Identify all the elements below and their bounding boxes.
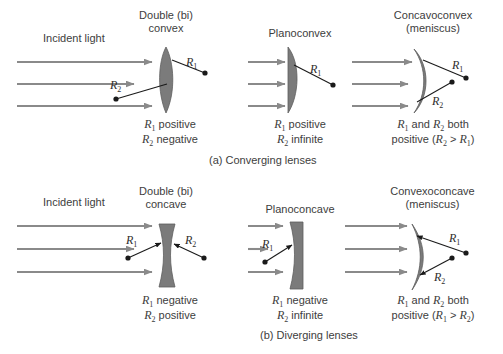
center-dot-r2-convexoconcave [449,255,454,260]
lens-note-biconcave-line2: R2 positive [118,308,222,324]
lens-biconvex [160,47,173,113]
lens-title-biconcave: Double (bi) concave [116,185,216,211]
lens-note-planoconvex-line2: R2 infinite [248,132,352,148]
lens-title-biconvex: Double (bi) convex [116,9,216,35]
lens-note-concavoconvex-line1: R1 and R2 both [368,117,498,133]
lens-title-concavoconvex: Concavoconvex (meniscus) [378,9,488,35]
rays-convexoconcave [345,226,407,272]
rays-planoconvex [248,62,285,106]
rays-biconvex [17,62,152,106]
radius-label-r1-concavoconvex: R1 [452,58,463,74]
radius-label-r1-convexoconcave: R1 [449,231,460,247]
lens-title-planoconcave: Planoconcave [250,203,350,216]
lens-title-concavoconvex-line2: (meniscus) [378,22,488,35]
center-dot-r2-biconcave [201,255,206,260]
radius-label-r2-concavoconvex: R2 [432,94,443,110]
lens-concavoconvex [414,49,426,113]
lens-note-planoconcave-line1: R1 negative [248,293,352,309]
incident-light-label-a: Incident light [43,32,105,44]
panel-b-caption: (b) Diverging lenses [260,329,358,341]
lens-note-biconcave-line1: R1 negative [118,293,222,309]
lens-title-planoconcave-line1: Planoconcave [250,203,350,216]
lens-note-biconvex-line2: R2 negative [118,132,222,148]
lens-note-biconvex-line1: R1 positive [118,117,222,133]
lens-title-planoconvex-line1: Planoconvex [250,27,350,40]
radius-label-r2-biconcave: R2 [185,233,196,249]
radius-label-r1-biconcave: R1 [126,233,137,249]
lens-title-convexoconcave-line2: (meniscus) [375,198,490,211]
rays-concavoconvex [352,62,412,106]
center-dot-r1-biconcave [125,255,130,260]
center-dot-r1-concavoconvex [463,75,468,80]
lens-planoconcave [290,222,303,289]
center-dot-r2-concavoconvex [449,79,454,84]
lens-note-planoconvex-line1: R1 positive [248,117,352,133]
lens-title-biconcave-line2: concave [116,198,216,211]
radius-label-r2-convexoconcave: R2 [434,270,445,286]
lens-title-biconvex-line1: Double (bi) [116,9,216,22]
center-dot-r2-biconvex [113,96,118,101]
lens-types-figure: Incident light Double (bi) convex Planoc… [0,0,503,354]
center-dot-r1-planoconvex [330,82,335,87]
lens-title-convexoconcave: Convexoconcave (meniscus) [375,185,490,211]
center-dot-r1-biconvex [202,70,207,75]
center-dot-r1-convexoconcave [463,250,468,255]
lens-note-convexoconcave-line2: positive (R1 > R2) [368,308,498,324]
radius-label-r1-planoconvex: R1 [310,62,321,78]
lens-title-biconcave-line1: Double (bi) [116,185,216,198]
lens-title-convexoconcave-line1: Convexoconcave [375,185,490,198]
lens-convexoconcave [412,224,423,290]
lens-title-planoconvex: Planoconvex [250,27,350,40]
radius-label-r1-planoconcave: R1 [262,237,273,253]
lens-planoconvex [288,47,297,113]
radius-label-r1-biconvex: R1 [186,55,197,71]
center-dot-r1-planoconcave [262,259,267,264]
lens-title-biconvex-line2: convex [116,22,216,35]
lens-title-concavoconvex-line1: Concavoconvex [378,9,488,22]
lens-note-convexoconcave-line1: R1 and R2 both [368,293,498,309]
incident-light-label-b: Incident light [43,196,105,208]
lens-note-concavoconvex-line2: positive (R2 > R1) [368,132,498,148]
radius-label-r2-biconvex: R2 [110,78,121,94]
lens-biconcave [159,224,175,287]
panel-a-caption: (a) Converging lenses [209,154,317,166]
lens-note-planoconcave-line2: R2 infinite [248,308,352,324]
